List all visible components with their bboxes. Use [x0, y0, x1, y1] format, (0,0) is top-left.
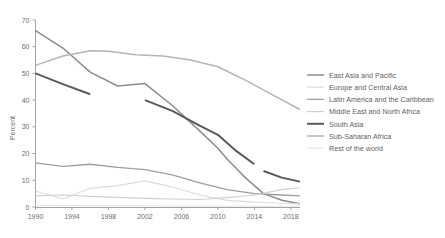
y-axis-title: Percent — [9, 116, 16, 140]
x-tick-label: 2002 — [137, 213, 153, 220]
chart-container: 010203040506070 199019941998200220062010… — [0, 0, 445, 238]
y-tick-label: 20 — [22, 150, 30, 157]
x-tick-label: 1994 — [64, 213, 80, 220]
y-axis-ticks: 010203040506070 — [22, 17, 36, 211]
series-line-europe-and-central-asia — [36, 181, 301, 204]
legend-item-label: Sub-Saharan Africa — [329, 132, 391, 141]
x-tick-label: 1990 — [28, 213, 44, 220]
legend-item-label: South Asia — [329, 120, 363, 129]
series-line-rest-of-the-world — [36, 205, 301, 206]
y-tick-label: 10 — [22, 177, 30, 184]
x-tick-label: 2018 — [283, 213, 299, 220]
legend-item-label: Rest of the world — [329, 144, 383, 153]
chart-legend: East Asia and PacificEurope and Central … — [307, 71, 434, 153]
series-lines — [36, 31, 301, 207]
y-tick-label: 50 — [22, 70, 30, 77]
legend-item-label: Europe and Central Asia — [329, 83, 407, 92]
series-line-south-asia — [36, 73, 91, 94]
x-tick-label: 2010 — [210, 213, 226, 220]
y-tick-label: 70 — [22, 17, 30, 24]
y-tick-label: 60 — [22, 43, 30, 50]
x-tick-label: 1998 — [101, 213, 117, 220]
y-tick-label: 30 — [22, 123, 30, 130]
x-tick-label: 2006 — [174, 213, 190, 220]
legend-item-label: Middle East and North Africa — [329, 107, 420, 116]
series-line-south-asia — [145, 100, 254, 164]
y-tick-label: 0 — [26, 204, 30, 211]
x-tick-label: 2014 — [247, 213, 263, 220]
legend-item-label: Latin America and the Caribbean — [329, 95, 434, 104]
series-line-south-asia — [264, 171, 300, 182]
x-axis-ticks: 19901994199820022006201020142018 — [28, 207, 299, 220]
line-chart: 010203040506070 199019941998200220062010… — [0, 0, 445, 238]
y-tick-label: 40 — [22, 97, 30, 104]
legend-item-label: East Asia and Pacific — [329, 71, 397, 80]
